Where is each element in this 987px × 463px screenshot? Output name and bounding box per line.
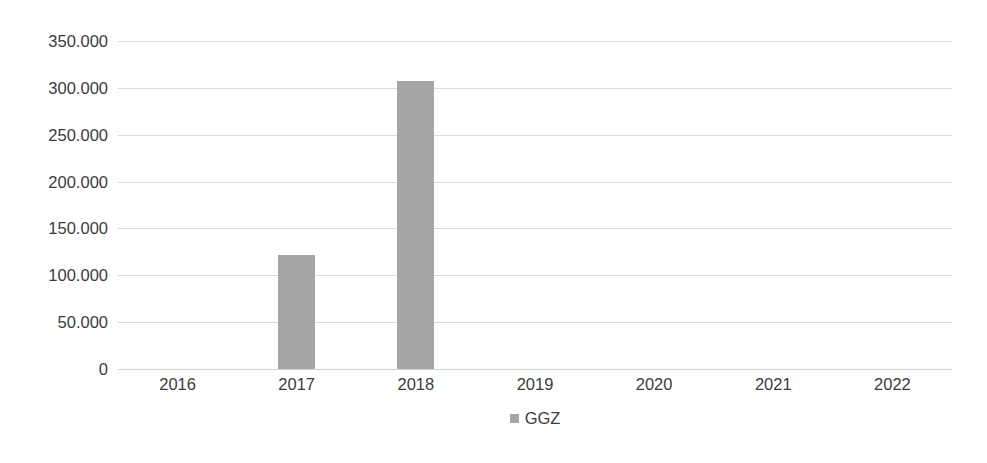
y-axis-tick-label: 150.000 [0,220,108,237]
y-axis-tick-label: 0 [0,361,108,378]
bar-slot [237,41,356,369]
x-axis-tick-label: 2022 [833,376,952,393]
x-axis-tick-label: 2018 [356,376,475,393]
x-axis-tick-label: 2019 [475,376,594,393]
y-axis-tick-label: 300.000 [0,80,108,97]
y-axis-tick-label: 250.000 [0,126,108,143]
legend-label: GGZ [525,410,561,427]
bar-slot [833,41,952,369]
legend-item[interactable]: GGZ [510,410,561,427]
legend-swatch-icon [510,414,519,423]
x-axis-tick-label: 2021 [714,376,833,393]
bar-slot [714,41,833,369]
x-axis-labels: 2016201720182019202020212022 [118,376,952,393]
bar-slot [356,41,475,369]
y-axis-tick-label: 100.000 [0,267,108,284]
gridline [118,369,952,370]
y-axis-tick-label: 50.000 [0,314,108,331]
bar-chart: 050.000100.000150.000200.000250.000300.0… [0,0,987,463]
y-axis-labels: 050.000100.000150.000200.000250.000300.0… [0,41,108,369]
x-axis-tick-label: 2020 [595,376,714,393]
x-axis-tick-label: 2017 [237,376,356,393]
bar[interactable] [397,81,434,369]
bar[interactable] [278,255,315,369]
y-axis-tick-label: 200.000 [0,173,108,190]
bar-slot [118,41,237,369]
bar-series-ggz [118,41,952,369]
bar-slot [595,41,714,369]
chart-legend: GGZ [118,410,952,427]
y-axis-tick-label: 350.000 [0,33,108,50]
bar-slot [475,41,594,369]
x-axis-tick-label: 2016 [118,376,237,393]
plot-area [118,41,952,369]
